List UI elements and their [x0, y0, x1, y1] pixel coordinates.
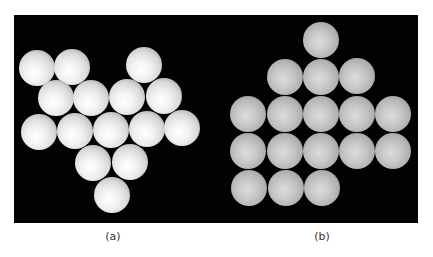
sphere	[375, 133, 411, 169]
sphere	[303, 133, 339, 169]
sphere	[339, 58, 375, 94]
sphere	[267, 133, 303, 169]
sphere	[38, 80, 74, 116]
sphere	[126, 47, 162, 83]
sphere	[164, 110, 200, 146]
sphere	[129, 111, 165, 147]
sphere	[268, 170, 304, 206]
sphere	[75, 145, 111, 181]
sphere	[93, 112, 129, 148]
panel-a-caption: (a)	[93, 230, 133, 243]
sphere	[267, 96, 303, 132]
sphere	[94, 177, 130, 213]
sphere	[57, 113, 93, 149]
sphere	[375, 96, 411, 132]
sphere	[73, 80, 109, 116]
sphere	[146, 78, 182, 114]
sphere	[230, 133, 266, 169]
sphere	[303, 22, 339, 58]
sphere	[339, 96, 375, 132]
sphere	[303, 96, 339, 132]
sphere	[267, 59, 303, 95]
sphere	[112, 144, 148, 180]
sphere	[303, 59, 339, 95]
sphere	[21, 114, 57, 150]
sphere	[231, 170, 267, 206]
panel-b-caption: (b)	[302, 230, 342, 243]
sphere	[304, 170, 340, 206]
figure: (a) (b)	[0, 0, 433, 257]
sphere	[339, 133, 375, 169]
sphere	[230, 96, 266, 132]
sphere	[109, 79, 145, 115]
